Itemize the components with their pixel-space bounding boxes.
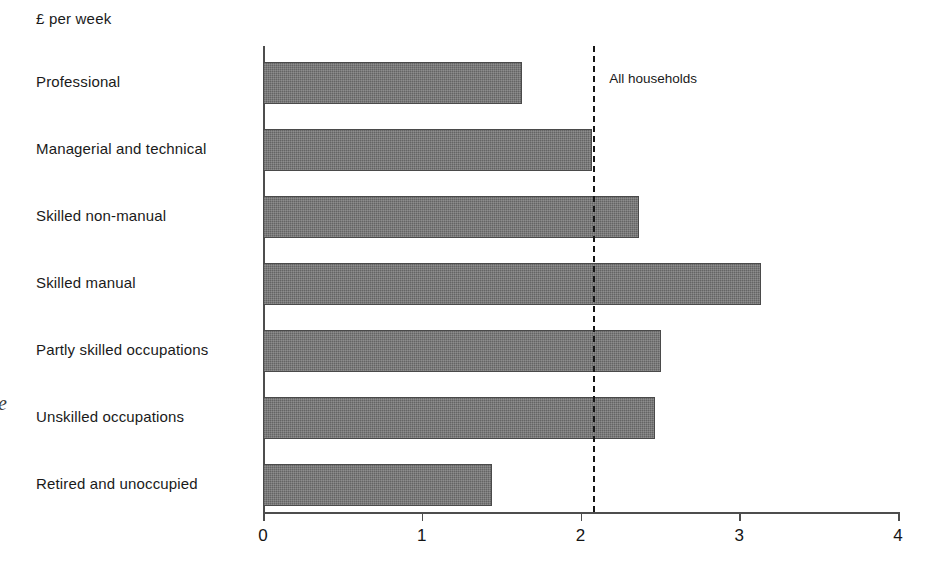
all-households-label: All households: [609, 71, 697, 86]
all-households-reference-line: [593, 46, 595, 512]
bar: [263, 263, 761, 305]
x-axis-tick: [581, 512, 583, 521]
category-label: Unskilled occupations: [36, 408, 184, 425]
x-axis-tick-label: 1: [402, 526, 442, 546]
bar: [263, 129, 592, 171]
bar: [263, 330, 661, 372]
category-label: Managerial and technical: [36, 140, 206, 157]
chart-page: £ per week e ProfessionalManagerial and …: [0, 0, 926, 571]
x-axis-tick: [422, 512, 424, 521]
category-label: Skilled manual: [36, 274, 136, 291]
x-axis-tick-label: 4: [878, 526, 918, 546]
category-label: Retired and unoccupied: [36, 475, 198, 492]
x-axis-tick-label: 0: [243, 526, 283, 546]
x-axis-tick: [898, 512, 900, 521]
bar: [263, 464, 492, 506]
x-axis-tick: [263, 512, 265, 521]
x-axis-tick-label: 3: [719, 526, 759, 546]
category-label: Partly skilled occupations: [36, 341, 208, 358]
x-axis-tick: [739, 512, 741, 521]
bar: [263, 62, 522, 104]
category-label: Skilled non-manual: [36, 207, 166, 224]
plot-area: ProfessionalManagerial and technicalSkil…: [0, 0, 926, 571]
category-label: Professional: [36, 73, 120, 90]
bar: [263, 196, 639, 238]
bar: [263, 397, 655, 439]
x-axis-tick-label: 2: [561, 526, 601, 546]
